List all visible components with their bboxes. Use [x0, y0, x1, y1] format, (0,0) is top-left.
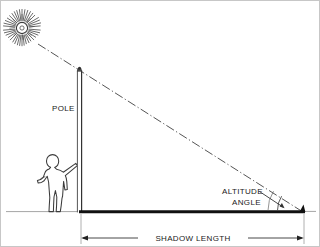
pole-label: POLE [52, 104, 75, 113]
altitude-label-line2: ANGLE [232, 198, 261, 207]
image-frame [1, 1, 320, 247]
altitude-label-line1: ALTITUDE [222, 187, 263, 196]
vertical-pole [77, 67, 82, 213]
diagram-canvas: POLE ALTITUDE ANGLE SHADOW LENGTH [0, 0, 320, 247]
solar-altitude-diagram: POLE ALTITUDE ANGLE SHADOW LENGTH [0, 0, 320, 247]
shadow-length-label: SHADOW LENGTH [155, 234, 230, 243]
